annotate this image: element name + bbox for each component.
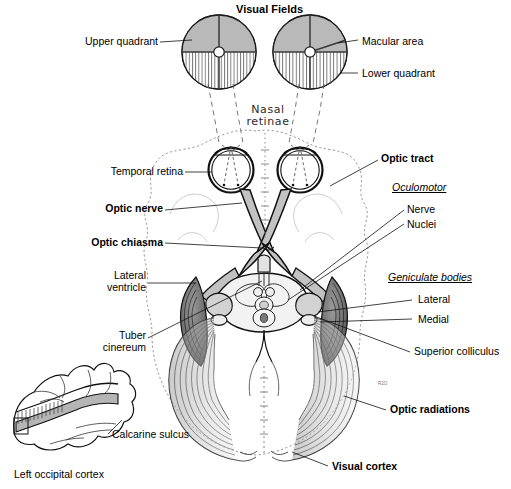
label-lower-quadrant: Lower quadrant (362, 68, 435, 80)
artist-signature: R2O (378, 378, 387, 390)
label-upper-quadrant: Upper quadrant (58, 36, 158, 48)
label-optic-radiations: Optic radiations (390, 404, 470, 416)
visual-field-right (273, 15, 352, 90)
label-optic-chiasma: Optic chiasma (68, 237, 163, 249)
label-oculomotor-nerve: Nerve (407, 204, 435, 216)
eye-left (209, 145, 254, 193)
anatomical-diagram: Visual Fields Upper quadrant Macular are… (0, 0, 511, 489)
group-heading-geniculate-bodies: Geniculate bodies (388, 272, 472, 284)
page-title: Visual Fields (236, 4, 303, 16)
label-visual-cortex: Visual cortex (332, 461, 397, 473)
label-nasal-retinae: Nasal retinae (238, 104, 298, 127)
label-temporal-retina: Temporal retina (85, 166, 183, 178)
label-tuber-cinereum: Tuber cinereum (78, 330, 146, 353)
label-lateral-ventricle: Lateral ventricle (78, 270, 146, 293)
label-calcarine-sulcus: Calcarine sulcus (112, 429, 189, 441)
visual-field-left (182, 15, 256, 90)
label-left-occipital-cortex: Left occipital cortex (14, 469, 104, 481)
label-macular-area: Macular area (362, 36, 423, 48)
eye-right (278, 145, 323, 193)
label-geniculate-medial: Medial (418, 314, 449, 326)
label-geniculate-lateral: Lateral (418, 294, 450, 306)
label-optic-tract: Optic tract (381, 153, 434, 165)
label-oculomotor-nuclei: Nuclei (407, 219, 436, 231)
label-superior-colliculus: Superior colliculus (414, 346, 499, 358)
label-optic-nerve: Optic nerve (75, 203, 163, 215)
group-heading-oculomotor: Oculomotor (392, 182, 446, 194)
